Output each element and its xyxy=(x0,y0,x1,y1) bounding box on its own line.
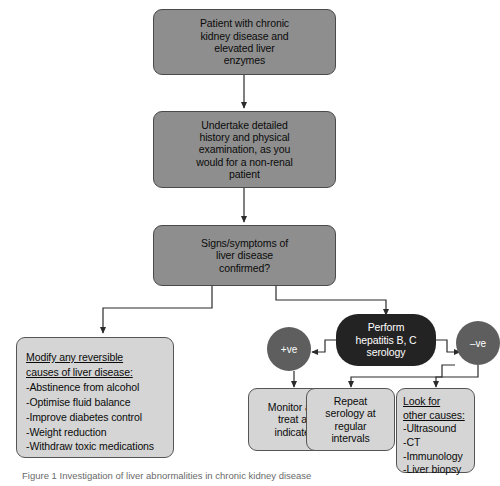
node-negative-result[interactable]: –ve xyxy=(456,321,500,365)
node-other-causes-item-1: -Ultrasound xyxy=(403,422,456,436)
node-modify-heading-1: Modify any reversible xyxy=(26,350,123,365)
node-start[interactable]: Patient with chronic kidney disease and … xyxy=(153,9,336,75)
node-other-causes-item-2: -CT xyxy=(403,436,420,450)
node-modify-item-3: -Improve diabetes control xyxy=(26,410,142,425)
node-decision[interactable]: Signs/symptoms of liver disease confirme… xyxy=(153,225,336,286)
node-negative-label: –ve xyxy=(470,338,486,349)
node-positive-result[interactable]: +ve xyxy=(267,327,311,371)
node-history-line-3: examination, as you xyxy=(199,143,291,155)
figure-caption: Figure 1 Investigation of liver abnormal… xyxy=(22,470,462,482)
node-start-line-3: elevated liver xyxy=(214,42,274,54)
node-decision-line-2: liver disease xyxy=(216,249,273,261)
node-modify-item-5: -Withdraw toxic medications xyxy=(26,439,154,454)
node-serology-line-3: serology xyxy=(367,346,406,358)
node-repeat-line-2: serology at xyxy=(325,407,375,419)
edge-serology-to-positive xyxy=(312,340,337,352)
node-other-causes-item-3: -Immunology xyxy=(403,450,463,464)
node-perform-serology[interactable]: Perform hepatitis B, C serology xyxy=(336,314,436,366)
node-positive-label: +ve xyxy=(281,344,297,355)
node-repeat-line-4: intervals xyxy=(331,432,369,444)
node-modify-item-4: -Weight reduction xyxy=(26,425,106,440)
node-history-line-4: would for a non-renal xyxy=(196,156,293,168)
node-repeat-line-1: Repeat xyxy=(334,395,367,407)
edge-decision-to-serology xyxy=(276,286,386,315)
edge-negative-to-other-causes xyxy=(436,365,478,387)
node-serology-line-2: hepatitis B, C xyxy=(355,334,416,346)
node-serology-line-1: Perform xyxy=(368,321,405,333)
node-history-line-1: Undertake detailed xyxy=(201,119,287,131)
node-decision-line-3: confirmed? xyxy=(219,262,270,274)
node-other-causes-heading-1: Look for xyxy=(403,395,440,409)
node-other-causes-heading-2: other causes: xyxy=(403,409,465,423)
node-history-line-2: history and physical xyxy=(199,131,289,143)
node-decision-line-1: Signs/symptoms of xyxy=(201,237,288,249)
node-start-line-1: Patient with chronic xyxy=(200,17,289,29)
node-modify-reversible-causes[interactable]: Modify any reversible causes of liver di… xyxy=(16,337,174,458)
edge-negative-to-repeat xyxy=(351,365,455,387)
node-modify-item-2: -Optimise fluid balance xyxy=(26,395,131,410)
node-modify-item-1: -Abstinence from alcohol xyxy=(26,380,139,395)
node-start-line-4: enzymes xyxy=(224,54,265,66)
node-start-line-2: kidney disease and xyxy=(200,30,288,42)
node-history-line-5: patient xyxy=(229,168,260,180)
node-repeat-line-3: regular xyxy=(335,420,367,432)
node-repeat-serology[interactable]: Repeat serology at regular intervals xyxy=(306,388,395,451)
node-history[interactable]: Undertake detailed history and physical … xyxy=(153,111,336,188)
node-modify-heading-2: causes of liver disease: xyxy=(26,365,133,380)
node-look-for-other-causes[interactable]: Look for other causes: -Ultrasound -CT -… xyxy=(396,388,475,473)
edge-decision-to-modify xyxy=(103,286,212,333)
